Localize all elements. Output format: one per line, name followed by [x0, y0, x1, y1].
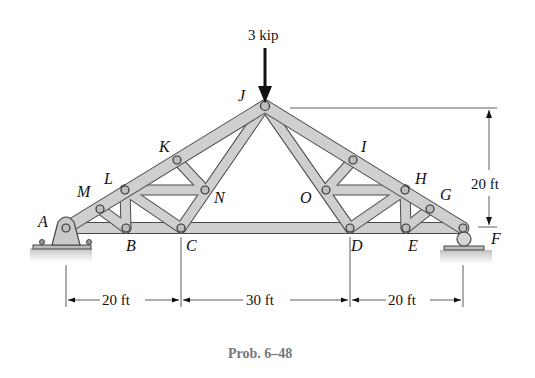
joint-label-I: I	[360, 138, 367, 155]
span-right-label: 20 ft	[388, 292, 417, 308]
joint-label-J: J	[238, 87, 246, 104]
joint-label-N: N	[213, 189, 226, 206]
joint-label-O: O	[300, 189, 312, 206]
load-arrow-icon	[258, 48, 272, 103]
height-label: 20 ft	[471, 176, 500, 192]
load-label: 3 kip	[248, 27, 278, 43]
web-members	[100, 106, 430, 228]
joint-label-C: C	[186, 237, 197, 254]
problem-caption: Prob. 6–48	[228, 346, 292, 361]
joint-label-F: F	[490, 230, 501, 247]
joint-label-G: G	[440, 186, 452, 203]
span-middle-label: 30 ft	[246, 292, 275, 308]
joint-label-E: E	[407, 237, 418, 254]
joint-label-B: B	[126, 237, 136, 254]
joint-label-M: M	[76, 183, 92, 200]
span-left-label: 20 ft	[102, 292, 131, 308]
joint-label-L: L	[103, 170, 113, 187]
joint-label-D: D	[350, 237, 363, 254]
truss-diagram: 3 kip J K L M A B C N O D E F G H I 20 f…	[0, 0, 535, 378]
joint-label-A: A	[37, 213, 48, 230]
joint-label-H: H	[414, 170, 428, 187]
height-dimension	[290, 108, 497, 227]
joint-label-K: K	[158, 138, 171, 155]
roller-support-icon	[440, 232, 492, 264]
